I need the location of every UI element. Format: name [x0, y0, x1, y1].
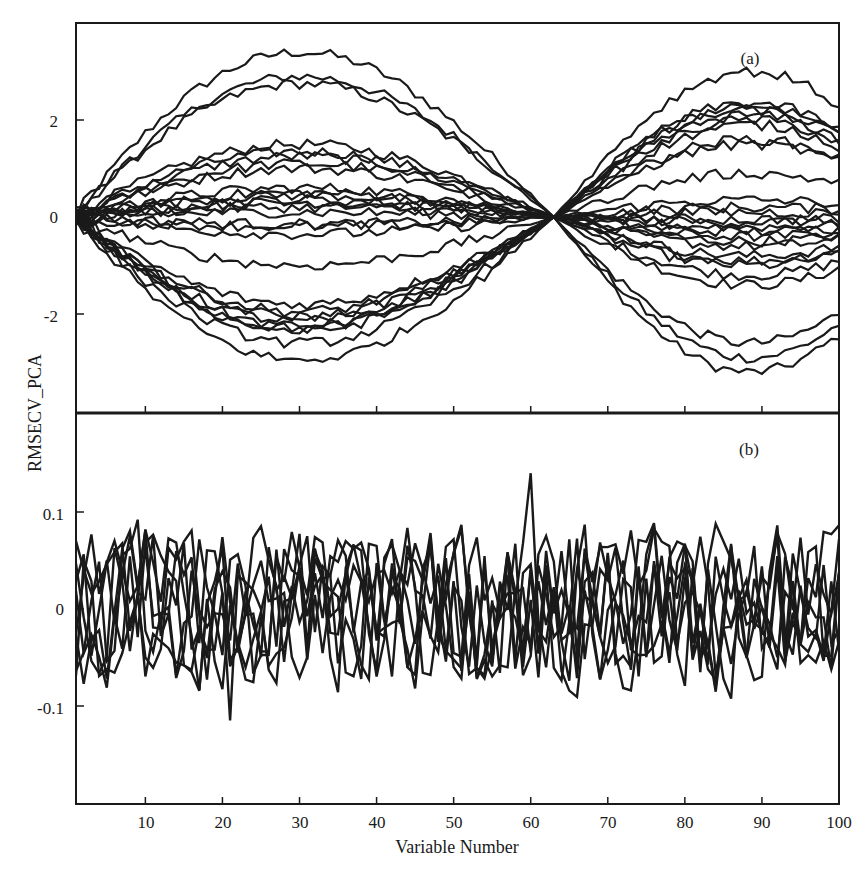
x-tick-labels: 10 20 30 40 50 60 70 80 90 100 [138, 813, 852, 832]
ytick-b-neg0.1: -0.1 [37, 699, 64, 718]
xtick-80: 80 [677, 813, 694, 832]
ytick-a-neg2: -2 [44, 307, 58, 326]
panel-a-curves [76, 50, 839, 374]
xtick-20: 20 [215, 813, 232, 832]
panel-b-label: (b) [739, 440, 759, 459]
xtick-50: 50 [446, 813, 463, 832]
series-line-s23 [76, 116, 839, 322]
xtick-60: 60 [523, 813, 540, 832]
residual-line-5 [76, 526, 839, 691]
xtick-30: 30 [292, 813, 309, 832]
panel-a-label: (a) [741, 49, 760, 68]
panel-b-curves [76, 473, 839, 720]
xtick-10: 10 [138, 813, 155, 832]
ytick-b-0: 0 [56, 600, 65, 619]
figure: 2 0 -2 0.1 0 -0.1 10 20 30 40 50 60 70 8… [0, 0, 867, 875]
x-axis-title: Variable Number [395, 837, 518, 857]
xtick-100: 100 [826, 813, 852, 832]
xtick-40: 40 [369, 813, 386, 832]
ytick-a-0: 0 [50, 208, 59, 227]
xtick-70: 70 [600, 813, 617, 832]
ytick-b-0.1: 0.1 [43, 505, 64, 524]
chart-canvas: 2 0 -2 0.1 0 -0.1 10 20 30 40 50 60 70 8… [0, 0, 867, 875]
series-line-s22 [76, 121, 839, 321]
series-line-s24 [76, 112, 839, 329]
xtick-90: 90 [754, 813, 771, 832]
y-axis-title: RMSECV_PCA [25, 354, 45, 472]
ytick-a-2: 2 [50, 112, 59, 131]
